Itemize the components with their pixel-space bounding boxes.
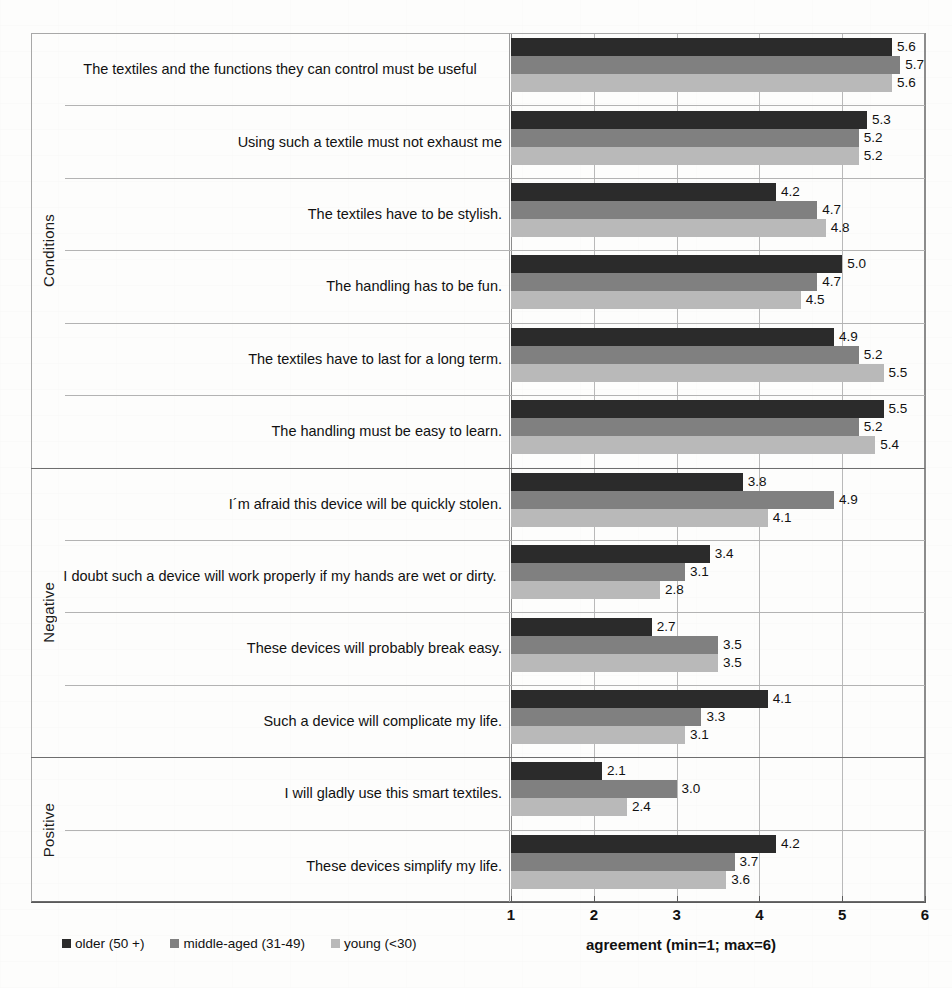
category-label: The textiles and the functions they can … <box>58 33 510 105</box>
category-label: I´m afraid this device will be quickly s… <box>58 468 510 540</box>
chart-legend: older (50 +)middle-aged (31-49)young (<3… <box>62 936 416 951</box>
x-tick-label: 1 <box>507 906 515 923</box>
group-label-text: Negative <box>40 582 57 643</box>
x-tick-label: 2 <box>590 906 598 923</box>
x-tick-label: 6 <box>921 906 929 923</box>
x-tick-label: 3 <box>672 906 680 923</box>
category-label: Such a device will complicate my life. <box>58 685 510 757</box>
group-label-text: Positive <box>40 803 57 857</box>
x-tick-label: 5 <box>838 906 846 923</box>
chart-root: The textiles and the functions they can … <box>0 0 952 988</box>
group-label-text: Conditions <box>40 214 57 287</box>
gridline-x-6 <box>925 33 926 902</box>
legend-item[interactable]: middle-aged (31-49) <box>170 936 305 951</box>
x-tick-label: 4 <box>755 906 763 923</box>
legend-label: young (<30) <box>344 936 416 951</box>
x-tick <box>925 896 926 903</box>
x-axis-title: agreement (min=1; max=6) <box>586 936 776 953</box>
x-axis-line <box>31 902 925 903</box>
x-tick <box>511 896 512 903</box>
category-label: The handling has to be fun. <box>58 250 510 322</box>
x-tick <box>594 896 595 903</box>
x-tick <box>842 896 843 903</box>
legend-label: older (50 +) <box>75 936 144 951</box>
legend-item[interactable]: older (50 +) <box>62 936 144 951</box>
legend-swatch-icon <box>331 939 340 948</box>
category-label: The textiles have to last for a long ter… <box>58 323 510 395</box>
legend-swatch-icon <box>170 939 179 948</box>
category-label: The textiles have to be stylish. <box>58 178 510 250</box>
x-tick <box>759 896 760 903</box>
group-label-positive: Positive <box>31 757 65 902</box>
x-tick <box>677 896 678 903</box>
group-label-negative: Negative <box>31 468 65 758</box>
category-label: I will gladly use this smart textiles. <box>58 757 510 829</box>
legend-item[interactable]: young (<30) <box>331 936 416 951</box>
category-label: These devices simplify my life. <box>58 830 510 902</box>
category-label: Using such a textile must not exhaust me <box>58 105 510 177</box>
category-label: The handling must be easy to learn. <box>58 395 510 467</box>
category-label: These devices will probably break easy. <box>58 612 510 684</box>
legend-swatch-icon <box>62 939 71 948</box>
category-label: I doubt such a device will work properly… <box>58 540 510 612</box>
legend-label: middle-aged (31-49) <box>183 936 305 951</box>
group-label-conditions: Conditions <box>31 33 65 468</box>
